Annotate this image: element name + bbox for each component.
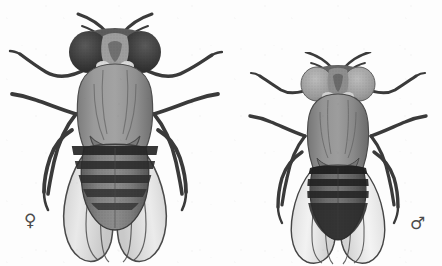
fly-specimen-male — [248, 52, 428, 266]
leg-front-left-tarsus-male — [251, 73, 260, 76]
leg-mid-right-male — [371, 116, 426, 136]
leg-hind-left-tarsus-male — [278, 207, 282, 223]
thorax-male — [307, 94, 368, 168]
drosophila-figure: ♀ ♂ — [0, 0, 442, 266]
fly-specimen-female — [8, 10, 223, 266]
sex-symbol-male: ♂ — [410, 215, 425, 232]
leg-mid-left — [12, 94, 76, 114]
leg-mid-left-male — [250, 116, 305, 136]
leg-hind-right-tarsus-male — [394, 207, 398, 223]
sex-symbol-female: ♀ — [24, 212, 36, 229]
thorax-female — [77, 64, 152, 148]
leg-front-right-tarsus-male — [416, 73, 425, 76]
leg-mid-right — [154, 94, 218, 114]
leg-front-right-tarsus — [212, 52, 222, 55]
leg-front-left-tarsus — [10, 51, 20, 54]
